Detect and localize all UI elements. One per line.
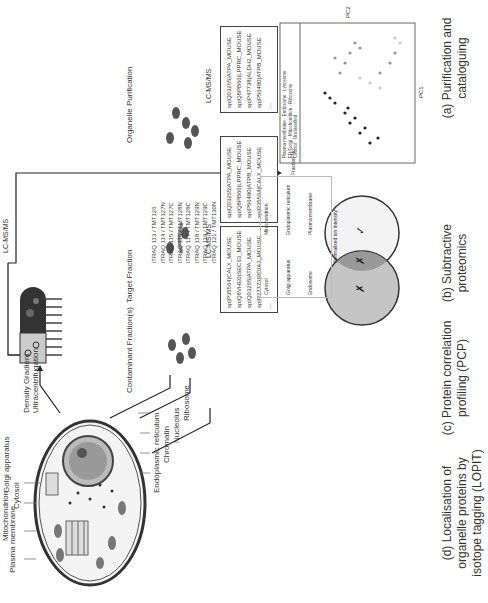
lcms-label-b: LC-MS/MS bbox=[205, 224, 212, 258]
caption-b: (b) Subtractive proteomics bbox=[440, 213, 470, 313]
density-gradient-label: Density Gradient Ultracentrifugation bbox=[22, 353, 40, 413]
caption-c: (c) Protein correlation profiling (PCP) bbox=[440, 318, 470, 438]
cell-icon bbox=[35, 421, 145, 585]
caption-a: (a) Purification and cataloguing bbox=[440, 13, 470, 123]
lcms-label-d: LC-MS/MS bbox=[2, 219, 9, 253]
contaminant-cross-icon: ✗ bbox=[354, 284, 367, 293]
overlap-cross-icon: ✗ bbox=[354, 256, 367, 265]
lcms-label-a: LC-MS/MS bbox=[205, 69, 212, 103]
pc2-label: PC2 bbox=[345, 6, 351, 18]
label-ribosome: Ribosome bbox=[182, 385, 191, 421]
target-fraction-label: Target Fraction bbox=[125, 250, 134, 303]
purified-protein-list: sp|Q03265|ATPA_MOUSE sp|Q8PB66|LPPRC_MOU… bbox=[220, 26, 278, 113]
pcp-profile-grid: Cytosol Mitochondrion Golgi apparatus En… bbox=[260, 176, 332, 298]
label-nucleolus: Nucleolus bbox=[172, 408, 181, 443]
diagram-canvas: Plasma membrane Mitochondrion Cytosol Go… bbox=[0, 0, 488, 603]
label-golgi: Golgi apparatus bbox=[2, 437, 11, 493]
lopit-legend: Plasma membrane · Endosome · Lysosome ER… bbox=[282, 70, 299, 158]
label-er: Endoplasmic reticulum bbox=[152, 413, 161, 493]
pc1-label: PC1 bbox=[418, 86, 424, 98]
label-cytosol: Cytosol bbox=[12, 482, 21, 509]
label-mitochondrion: Mitochondrion bbox=[1, 491, 10, 541]
target-check-icon: ✓ bbox=[354, 226, 367, 235]
label-chromatin: Chromatin bbox=[162, 426, 171, 463]
pcp-ylabel: Normalised ion intensity bbox=[332, 210, 338, 263]
contaminant-fraction-label: Contaminant Fraction(s) bbox=[125, 307, 134, 393]
caption-d: (d) Localisation of organelle proteins b… bbox=[440, 443, 485, 583]
organelle-purification-label: Organelle Purification bbox=[125, 67, 134, 143]
